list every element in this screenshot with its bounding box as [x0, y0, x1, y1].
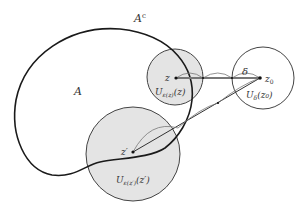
point-z0: [258, 76, 262, 80]
point-z-prime: [131, 150, 134, 153]
point-mid-1: [202, 77, 204, 79]
label-z: z: [164, 73, 170, 83]
point-mid-3: [217, 102, 219, 104]
label-z-prime: z′: [120, 147, 128, 157]
diagram-canvas: Ac A z z0 δ z′ Uε(z)(z) Uδ(z₀) Uε(z′)(z′…: [0, 0, 301, 211]
point-mid-2: [231, 77, 233, 79]
label-u-delta: Uδ(z₀): [246, 90, 273, 101]
label-delta: δ: [242, 66, 248, 77]
label-a: A: [73, 85, 82, 98]
point-z: [174, 76, 177, 79]
label-a-complement: Ac: [133, 12, 146, 25]
neighborhood-z-prime: [86, 107, 180, 201]
